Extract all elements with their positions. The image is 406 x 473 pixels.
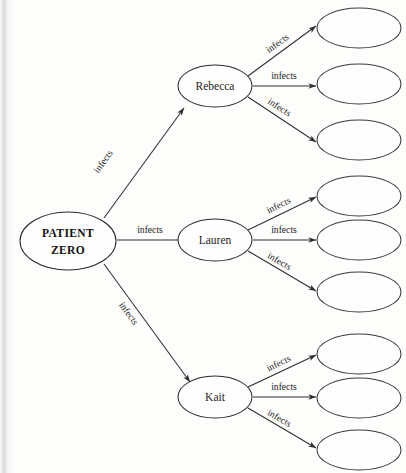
leaf-node-lauren-2[interactable]	[317, 220, 401, 260]
edge-label-lauren-leaf-2: infects	[271, 224, 297, 235]
edge-patientzero-kait	[104, 264, 190, 382]
leaf-node-kait-3[interactable]	[317, 430, 401, 470]
node-label-lauren: Lauren	[199, 234, 232, 246]
leaf-node-rebecca-3[interactable]	[317, 120, 401, 160]
edge-label-kait-leaf-3: infects	[266, 407, 294, 429]
leaf-node-rebecca-1[interactable]	[317, 8, 401, 48]
edge-label-patientzero-rebecca: infects	[91, 147, 115, 174]
edge-label-rebecca-leaf-1: infects	[264, 31, 291, 55]
leaf-node-rebecca-2[interactable]	[317, 64, 401, 104]
edge-label-kait-leaf-1: infects	[265, 352, 293, 373]
diagram-canvas: infects infects infects PATIENT ZERO inf…	[0, 0, 406, 473]
edge-label-kait-leaf-2: infects	[271, 381, 297, 392]
node-patient-zero[interactable]	[20, 212, 116, 270]
edge-label-lauren-leaf-1: infects	[265, 194, 293, 215]
leaf-node-kait-2[interactable]	[317, 378, 401, 418]
node-label-patient-zero-line2: ZERO	[51, 244, 85, 256]
edge-label-rebecca-leaf-2: infects	[271, 70, 297, 81]
node-label-patient-zero-line1: PATIENT	[42, 227, 94, 239]
edge-patientzero-rebecca	[104, 108, 184, 218]
leaf-node-lauren-3[interactable]	[317, 272, 401, 312]
edge-label-rebecca-leaf-3: infects	[266, 95, 294, 118]
edge-label-lauren-leaf-3: infects	[266, 250, 294, 272]
leaf-node-kait-1[interactable]	[317, 334, 401, 374]
edge-label-patientzero-lauren: infects	[137, 224, 163, 235]
edge-label-patientzero-kait: infects	[117, 300, 141, 327]
leaf-node-lauren-1[interactable]	[317, 176, 401, 216]
node-label-rebecca: Rebecca	[196, 80, 235, 92]
infection-tree-graph: infects infects infects PATIENT ZERO inf…	[0, 0, 406, 473]
node-label-kait: Kait	[205, 391, 226, 403]
